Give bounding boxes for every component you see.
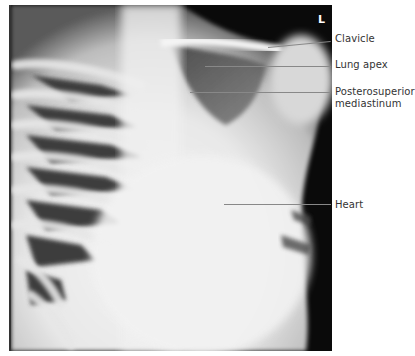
heart-label: Heart (335, 199, 363, 211)
posterosuperior-label-line1: Posterosuperior (335, 86, 415, 98)
posterosuperior-mediastinum-label: Posterosuperior mediastinum (335, 86, 415, 110)
lung-apex-leader-line (205, 66, 331, 67)
posterosuperior-label-line2: mediastinum (335, 98, 415, 110)
xray-render (11, 5, 332, 351)
side-marker-label: L (318, 13, 325, 26)
posterosuperior-mediastinum-leader-line (190, 92, 331, 93)
clavicle-label: Clavicle (335, 33, 375, 45)
heart-leader-line (224, 204, 331, 205)
xray-image: L (9, 5, 332, 351)
lung-apex-label: Lung apex (335, 59, 388, 71)
